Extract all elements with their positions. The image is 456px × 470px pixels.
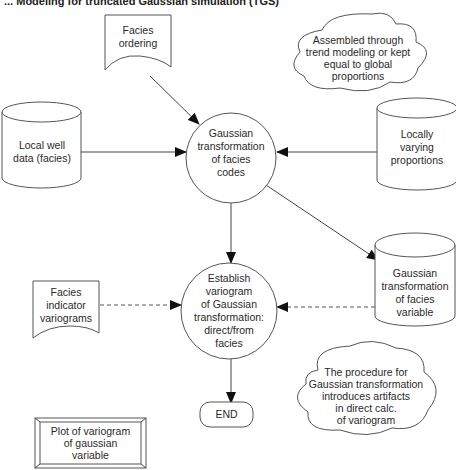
node-local-well-data: Local well data (facies) <box>2 102 81 188</box>
cylinder-top <box>377 98 456 118</box>
node-label: Local well <box>19 139 65 151</box>
edge-facies-ordering-to-gaussian <box>150 76 199 124</box>
node-label: Gaussian <box>209 127 254 139</box>
node-label: facies <box>215 337 242 349</box>
node-establish-variogram: Establish variogram of Gaussian transfor… <box>181 263 277 359</box>
edge-gaussian-to-variable <box>266 185 378 260</box>
node-label: of variogram <box>337 414 396 426</box>
node-artifacts-note: The procedure for Gaussian transformatio… <box>297 341 436 434</box>
node-label: data (facies) <box>13 152 71 164</box>
node-label: introduces artifacts <box>322 390 410 402</box>
node-gaussian-transform-codes: Gaussian transformation of facies codes <box>186 113 276 203</box>
node-label: Facies <box>51 286 82 298</box>
node-label: varying <box>400 141 434 153</box>
node-label: transformation: <box>194 311 264 323</box>
node-gaussian-transform-variable: Gaussian transformation of facies variab… <box>375 233 455 326</box>
node-label: Gaussian transformation <box>309 378 424 390</box>
node-label: variable <box>397 306 434 318</box>
diagram-title: ... Modeling for truncated Gaussian simu… <box>4 0 279 7</box>
node-label: direct/from <box>204 324 254 336</box>
node-label: variogram <box>206 285 253 297</box>
node-label: proportions <box>332 70 385 82</box>
node-label: ordering <box>119 37 158 49</box>
node-label: Facies <box>123 24 154 36</box>
node-label: END <box>215 408 238 420</box>
node-label: of facies <box>395 293 434 305</box>
node-end: END <box>200 402 253 427</box>
node-label: codes <box>217 166 245 178</box>
node-label: Assembled through <box>313 34 404 46</box>
node-label: proportions <box>391 154 444 166</box>
node-label: Locally <box>401 128 434 140</box>
node-label: transformation <box>381 280 448 292</box>
node-facies-indicator-variograms: Facies indicator variograms <box>33 281 99 338</box>
node-label: indicator <box>46 299 86 311</box>
node-label: Plot of variogram <box>51 425 131 437</box>
node-label: Gaussian <box>393 267 438 279</box>
node-label: of facies <box>211 153 250 165</box>
node-label: variable <box>72 449 109 461</box>
node-label: Establish <box>208 272 251 284</box>
flow-diagram: ... Modeling for truncated Gaussian simu… <box>0 0 456 470</box>
cylinder-top <box>375 233 455 257</box>
node-label: The procedure for <box>324 366 408 378</box>
node-locally-varying-proportions: Locally varying proportions <box>377 98 456 190</box>
cylinder-top <box>2 102 81 122</box>
node-label: trend modeling or kept <box>306 46 411 58</box>
node-label: of Gaussian <box>201 298 257 310</box>
node-plot-variogram: Plot of variogram of gaussian variable <box>35 418 146 468</box>
node-facies-ordering: Facies ordering <box>105 15 171 70</box>
node-label: equal to global <box>324 58 392 70</box>
node-label: in direct calc. <box>335 402 396 414</box>
node-label: variograms <box>40 312 92 324</box>
node-label: transformation <box>197 140 264 152</box>
node-trend-note: Assembled through trend modeling or kept… <box>294 13 427 91</box>
node-label: of gaussian <box>64 437 118 449</box>
